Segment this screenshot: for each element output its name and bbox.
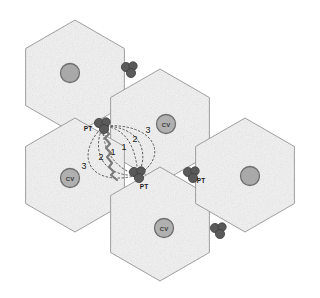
figure-caption-strip: Fig. 1 Hexagonal cell layout showing PT … bbox=[0, 284, 320, 298]
hop-label-left-1: 1 bbox=[110, 147, 115, 157]
pt-label-lower: PT bbox=[140, 183, 148, 190]
hop-label-right-1: 1 bbox=[121, 142, 126, 152]
pt-label-upper: PT bbox=[84, 125, 92, 132]
plain-node-right bbox=[241, 167, 260, 186]
plain-node-top-left bbox=[61, 64, 80, 83]
figure-container: CV CV CV bbox=[0, 0, 320, 298]
hop-label-right-3: 3 bbox=[145, 125, 150, 135]
cv-node-label: CV bbox=[66, 176, 74, 182]
cv-node-bottom: CV bbox=[155, 219, 174, 238]
cv-node-left: CV bbox=[61, 169, 80, 188]
cv-node-top-center: CV bbox=[157, 115, 176, 134]
cv-node-label: CV bbox=[160, 226, 168, 232]
network-diagram: CV CV CV bbox=[0, 0, 320, 298]
hop-label-left-3: 3 bbox=[81, 161, 86, 171]
pt-label-right: PT bbox=[197, 177, 205, 184]
cv-node-label: CV bbox=[162, 122, 170, 128]
hop-label-left-2: 2 bbox=[98, 152, 103, 162]
hop-label-right-2: 2 bbox=[132, 134, 137, 144]
